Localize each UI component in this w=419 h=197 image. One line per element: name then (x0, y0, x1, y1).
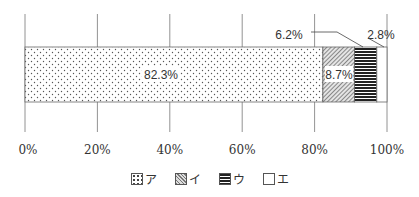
legend-item-c: ウ (219, 170, 245, 187)
segment-c (354, 47, 376, 102)
label-b: 8.7% (325, 68, 353, 82)
legend-item-a: ア (131, 170, 157, 187)
svg-text:0%: 0% (18, 143, 37, 157)
legend-item-d: エ (263, 170, 289, 187)
stripes-pattern-icon (219, 173, 231, 185)
hatch-pattern-icon (175, 173, 187, 185)
label-a: 82.3% (144, 68, 178, 82)
blank-pattern-icon (263, 173, 275, 185)
svg-text:100%: 100% (370, 143, 404, 157)
svg-text:80%: 80% (301, 143, 328, 157)
stacked-bar-chart: 82.3% 8.7% 6.2% 2.8% 0% 20% 40% 60% 80% … (0, 0, 419, 197)
segment-d (377, 47, 387, 102)
dots-pattern-icon (131, 173, 143, 185)
label-c: 6.2% (275, 28, 303, 42)
x-axis-ticks: 0% 20% 40% 60% 80% 100% (18, 143, 404, 157)
legend: ア イ ウ エ (0, 170, 419, 187)
svg-text:20%: 20% (84, 143, 111, 157)
svg-text:40%: 40% (156, 143, 183, 157)
svg-text:60%: 60% (229, 143, 256, 157)
legend-item-b: イ (175, 170, 201, 187)
